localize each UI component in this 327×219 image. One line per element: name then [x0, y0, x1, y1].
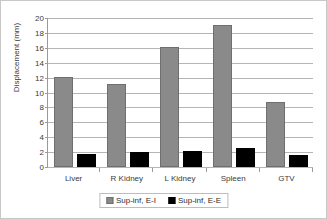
x-tick-cell	[47, 168, 100, 173]
x-tick-cell	[153, 168, 206, 173]
legend-item-ee: Sup-inf, E-E	[168, 196, 221, 205]
plot-area: 02468101214161820	[47, 18, 313, 168]
y-tick-label: 4	[40, 133, 44, 142]
x-axis-label: R Kidney	[100, 174, 153, 183]
x-axis-label: L Kidney	[153, 174, 206, 183]
bar-chart-figure: Displacement (mm) 02468101214161820 Live…	[0, 0, 327, 219]
y-tick-label: 6	[40, 118, 44, 127]
y-tick-label: 0	[40, 163, 44, 172]
bar-groups	[48, 18, 313, 167]
bar-group	[260, 18, 313, 167]
legend-swatch-ei	[106, 197, 113, 204]
y-tick-label: 18	[35, 28, 44, 37]
y-axis-title: Displacement (mm)	[12, 0, 21, 118]
bar	[266, 102, 285, 167]
y-tick-label: 8	[40, 103, 44, 112]
bar	[213, 25, 232, 167]
y-tick-label: 2	[40, 148, 44, 157]
y-tick-label: 16	[35, 43, 44, 52]
x-tick-cell	[207, 168, 260, 173]
x-axis-label: Liver	[47, 174, 100, 183]
bar	[107, 84, 126, 167]
bar	[130, 152, 149, 167]
legend-label-ei: Sup-inf, E-I	[116, 196, 156, 205]
bar-group	[48, 18, 101, 167]
legend-swatch-ee	[168, 197, 175, 204]
legend-item-ei: Sup-inf, E-I	[106, 196, 156, 205]
legend: Sup-inf, E-I Sup-inf, E-E	[99, 193, 228, 208]
y-tick-label: 12	[35, 73, 44, 82]
bar	[236, 148, 255, 167]
x-axis-label: Spleen	[207, 174, 260, 183]
bar-group	[207, 18, 260, 167]
x-tick-cell	[100, 168, 153, 173]
x-axis-labels: LiverR KidneyL KidneySpleenGTV	[47, 174, 313, 183]
bar	[289, 155, 308, 167]
bar-group	[154, 18, 207, 167]
bar	[77, 154, 96, 167]
y-tick-label: 10	[35, 88, 44, 97]
y-tick-label: 14	[35, 58, 44, 67]
x-tick-mark	[312, 168, 313, 172]
x-tick-cell	[260, 168, 313, 173]
bar-group	[101, 18, 154, 167]
x-axis-ticks	[47, 168, 313, 173]
y-tick-label: 20	[35, 14, 44, 23]
bar	[54, 77, 73, 167]
bar	[160, 47, 179, 167]
bar	[183, 151, 202, 167]
x-axis-label: GTV	[260, 174, 313, 183]
legend-label-ee: Sup-inf, E-E	[178, 196, 221, 205]
